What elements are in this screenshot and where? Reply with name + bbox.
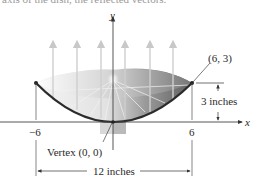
point-label: (6, 3) [208, 52, 232, 64]
tick-label-neg6: −6 [29, 126, 41, 138]
parabolic-dish-diagram [0, 0, 261, 185]
tick-label-6: 6 [189, 126, 195, 138]
x-axis-label: x [245, 116, 250, 128]
y-axis-label: y [110, 9, 115, 21]
width-label: 12 inches [93, 165, 135, 177]
vertex-label: Vertex (0, 0) [47, 146, 102, 158]
point-leader-line [193, 63, 210, 82]
depth-label: 3 inches [201, 95, 237, 107]
